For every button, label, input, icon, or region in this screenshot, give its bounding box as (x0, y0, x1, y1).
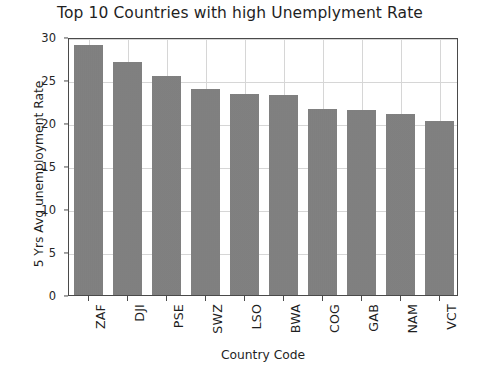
bar-dji (113, 62, 143, 295)
x-axis-ticks: ZAFDJIPSESWZLSOBWACOGGABNAMVCT (68, 296, 458, 356)
x-tick-mark (361, 296, 362, 301)
x-tick-mark (205, 296, 206, 301)
x-tick-label-vct: VCT (445, 304, 458, 330)
x-tick-mark (439, 296, 440, 301)
bar-swz (191, 89, 221, 295)
bar-gab (347, 110, 377, 295)
x-tick-mark (244, 296, 245, 301)
y-tick-label: 20 (41, 118, 56, 130)
chart-title: Top 10 Countries with high Unemplyment R… (0, 4, 480, 23)
x-tick-label-bwa: BWA (289, 304, 302, 333)
x-tick-mark (166, 296, 167, 301)
x-tick-label-lso: LSO (250, 304, 263, 330)
bar-pse (152, 76, 182, 295)
x-tick-mark (283, 296, 284, 301)
y-axis-ticks: 051015202530 (0, 38, 68, 296)
plot-area (68, 38, 458, 296)
bar-nam (386, 114, 416, 295)
y-tick-label: 15 (41, 161, 56, 173)
bar-chart-figure: Top 10 Countries with high Unemplyment R… (0, 0, 480, 382)
x-tick-label-dji: DJI (133, 304, 146, 322)
y-tick-label: 30 (41, 32, 56, 44)
x-tick-label-nam: NAM (406, 304, 419, 334)
y-tick-label: 0 (49, 290, 56, 302)
bar-cog (308, 109, 338, 295)
x-tick-label-swz: SWZ (211, 304, 224, 334)
y-tick-label: 5 (49, 247, 56, 259)
x-tick-mark (400, 296, 401, 301)
x-tick-mark (88, 296, 89, 301)
x-tick-label-pse: PSE (172, 304, 185, 328)
x-tick-label-cog: COG (328, 304, 341, 333)
bar-series (69, 39, 457, 295)
x-tick-label-gab: GAB (367, 304, 380, 332)
bar-lso (230, 94, 260, 295)
x-tick-mark (127, 296, 128, 301)
bar-vct (425, 121, 455, 295)
bar-bwa (269, 95, 299, 295)
x-tick-mark (322, 296, 323, 301)
bar-zaf (74, 45, 104, 295)
x-axis-title: Country Code (68, 348, 458, 362)
y-tick-label: 10 (41, 204, 56, 216)
x-tick-label-zaf: ZAF (94, 304, 107, 329)
y-tick-label: 25 (41, 75, 56, 87)
